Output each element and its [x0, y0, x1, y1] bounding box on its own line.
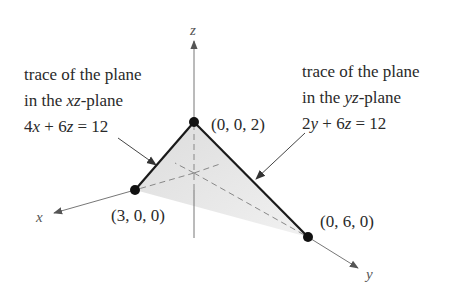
xz-caption-line1: trace of the plane — [24, 65, 142, 84]
point-z-intercept — [189, 117, 199, 127]
yz-trace-pointer — [256, 133, 305, 179]
point-x-intercept — [130, 185, 140, 195]
yz-trace-caption: trace of the plane in the yz-plane 2y + … — [302, 62, 420, 133]
point-label-y-intercept: (0, 6, 0) — [320, 212, 374, 231]
x-axis-label: x — [35, 209, 43, 225]
yz-trace-equation: 2y + 6z = 12 — [302, 114, 386, 133]
point-label-x-intercept: (3, 0, 0) — [111, 206, 165, 225]
xz-trace-pointer — [118, 138, 156, 165]
point-y-intercept — [303, 232, 313, 242]
point-label-z-intercept: (0, 0, 2) — [211, 115, 265, 134]
xz-trace-equation: 4x + 6z = 12 — [24, 117, 108, 136]
y-axis-label: y — [364, 266, 373, 282]
z-axis-label: z — [189, 22, 196, 38]
yz-caption-line2: in the yz-plane — [302, 88, 401, 107]
xz-caption-line2: in the xz-plane — [24, 91, 123, 110]
yz-caption-line1: trace of the plane — [302, 62, 420, 81]
plane-trace-diagram: z x y (0, 0, 2) (3, 0, 0) (0, 6, 0) trac… — [0, 0, 471, 298]
xz-trace-caption: trace of the plane in the xz-plane 4x + … — [24, 65, 142, 136]
y-axis — [308, 237, 358, 268]
